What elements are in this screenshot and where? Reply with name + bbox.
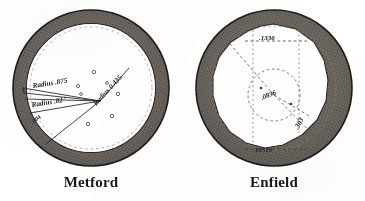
figure-sheet: Radius .875 Radius .82" Radius 0.435 .00… [0, 0, 365, 201]
panel-enfield: .1336 .0836 .10519 .303 Enfield [183, 0, 365, 201]
caption-metford: Metford [0, 174, 182, 191]
enfield-vignette [196, 10, 352, 166]
enfield-diagram: .1336 .0836 .10519 .303 [183, 0, 365, 176]
caption-enfield: Enfield [183, 174, 365, 191]
metford-vignette [13, 10, 169, 166]
metford-diagram: Radius .875 Radius .82" Radius 0.435 .00… [0, 0, 182, 176]
panel-metford: Radius .875 Radius .82" Radius 0.435 .00… [0, 0, 182, 201]
